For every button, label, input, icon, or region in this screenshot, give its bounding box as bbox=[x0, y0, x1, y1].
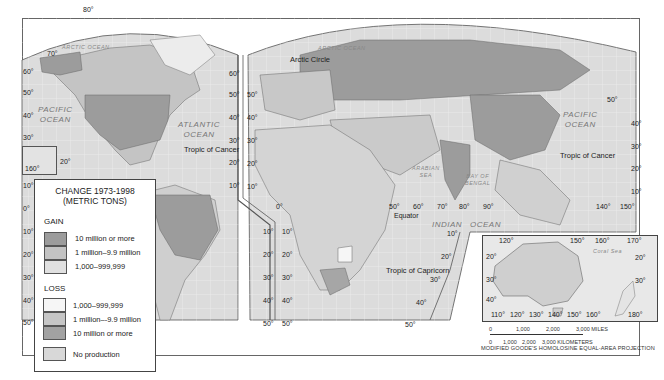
lat-label: 40° bbox=[23, 297, 34, 304]
lat-label: 20° bbox=[229, 159, 240, 166]
lat-label: 30° bbox=[229, 137, 240, 144]
lat-label: 40° bbox=[631, 120, 642, 127]
lon-label: 150° bbox=[570, 237, 584, 244]
legend-loss-mid: 1 million–-9.9 million bbox=[73, 315, 141, 324]
atlantic-ocean-label: ATLANTIC OCEAN bbox=[178, 120, 220, 140]
legend-swatch-loss-low bbox=[43, 298, 66, 312]
scale-line bbox=[490, 334, 583, 335]
legend-swatch-gain-low bbox=[44, 260, 67, 274]
scale-miles-3000: 3,000 MILES bbox=[576, 326, 608, 332]
lat-label: 50° bbox=[229, 91, 240, 98]
legend-gain-label: GAIN bbox=[44, 217, 64, 226]
lat-label: 50° bbox=[282, 320, 293, 327]
lat-label: 30° bbox=[263, 274, 274, 281]
lat-label: 40° bbox=[229, 114, 240, 121]
lat-label: 10° bbox=[282, 228, 293, 235]
lat-label: 60° bbox=[229, 70, 240, 77]
lat-label: 0° bbox=[276, 203, 283, 210]
indian-ocean-label-2: OCEAN bbox=[470, 220, 501, 230]
lat-label: 20° bbox=[441, 253, 452, 260]
legend-swatch-loss-high bbox=[43, 326, 66, 340]
lon-label: 180° bbox=[628, 311, 642, 318]
equator-label: Equator bbox=[394, 212, 419, 219]
lon-label: 60° bbox=[413, 203, 424, 210]
lat-label: 30° bbox=[282, 274, 293, 281]
lat-label: 40° bbox=[263, 297, 274, 304]
legend-loss-label: LOSS bbox=[44, 284, 65, 293]
australia-inset: 120° 150° 160° 170° Coral Sea 20° 30° 40… bbox=[482, 235, 658, 322]
legend-swatch-gain-high bbox=[44, 232, 67, 246]
lat-label: 20° bbox=[23, 251, 34, 258]
pacific-ocean-label-right: PACIFIC OCEAN bbox=[563, 110, 597, 130]
lat-label: 20° bbox=[263, 251, 274, 258]
lat-label: 10° bbox=[23, 228, 34, 235]
lat-label: 30° bbox=[486, 276, 497, 283]
lat-label: 20° bbox=[631, 165, 642, 172]
legend-no-production: No production bbox=[73, 350, 120, 359]
lat-label: 10° bbox=[263, 228, 274, 235]
lon-label: 50° bbox=[389, 203, 400, 210]
lon-label: 160° bbox=[586, 311, 600, 318]
lon-label: 80° bbox=[459, 203, 470, 210]
lat-label: 30° bbox=[247, 137, 258, 144]
scale-miles-1000: 1,000 bbox=[516, 326, 530, 332]
arabian-sea-label: ARABIAN SEA bbox=[412, 165, 440, 179]
lat-label: 60° bbox=[23, 68, 34, 75]
lat-label: 40° bbox=[486, 296, 497, 303]
lon-label: 70° bbox=[437, 203, 448, 210]
legend-swatch-no-production bbox=[43, 347, 66, 361]
legend-title: CHANGE 1973-1998 (METRIC TONS) bbox=[35, 186, 155, 206]
legend-title-line-1: CHANGE 1973-1998 bbox=[35, 186, 155, 196]
lat-label: 20° bbox=[282, 251, 293, 258]
lat-label: 30° bbox=[631, 143, 642, 150]
lat-label: 30° bbox=[430, 276, 441, 283]
lon-label: 160° bbox=[595, 237, 609, 244]
lat-label: 40° bbox=[416, 299, 427, 306]
legend-gain-mid: 1 million–9.9 million bbox=[75, 248, 140, 257]
lat-label: 30° bbox=[23, 274, 34, 281]
lat-label: 10° bbox=[631, 188, 642, 195]
legend-title-line-2: (METRIC TONS) bbox=[35, 196, 155, 206]
lat-label: 40° bbox=[247, 114, 258, 121]
bay-of-bengal-label: BAY OF BENGAL bbox=[465, 173, 490, 187]
lon-label: 140° bbox=[548, 311, 562, 318]
legend-loss-low: 1,000–999,999 bbox=[73, 301, 123, 310]
lat-label: 20° bbox=[635, 254, 646, 261]
lat-label: 10° bbox=[229, 182, 240, 189]
hawaii-lat-label: 20° bbox=[60, 158, 71, 165]
scale-miles-2000: 2,000 bbox=[546, 326, 560, 332]
legend: CHANGE 1973-1998 (METRIC TONS) GAIN 10 m… bbox=[34, 179, 156, 372]
lat-label: 80° bbox=[83, 6, 94, 13]
hawaii-lon-label: 160° bbox=[25, 165, 39, 172]
lon-label: 130° bbox=[529, 311, 543, 318]
lat-label: 50° bbox=[247, 91, 258, 98]
tropic-capricorn-label: Tropic of Capricorn bbox=[386, 266, 450, 275]
scale-miles-0: 0 bbox=[489, 326, 492, 332]
lat-label: 0° bbox=[23, 205, 30, 212]
lat-label: 10° bbox=[447, 230, 458, 237]
tropic-cancer-right-label: Tropic of Cancer bbox=[560, 151, 615, 160]
lat-label: 20° bbox=[247, 160, 258, 167]
lon-label: 120° bbox=[499, 237, 513, 244]
lon-label: 90° bbox=[483, 203, 494, 210]
lat-label: 50° bbox=[607, 96, 618, 103]
lat-label: 70° bbox=[47, 50, 58, 57]
legend-gain-low: 1,000–999,999 bbox=[75, 262, 125, 271]
legend-swatch-gain-mid bbox=[44, 246, 67, 260]
lat-label: 50° bbox=[23, 319, 34, 326]
lon-label: 150° bbox=[620, 203, 634, 210]
lat-label: 40° bbox=[282, 297, 293, 304]
lon-label: 140° bbox=[596, 203, 610, 210]
lat-label: 30° bbox=[23, 134, 34, 141]
lat-label: 50° bbox=[405, 321, 416, 328]
arctic-ocean-label-right: ARCTIC OCEAN bbox=[318, 45, 366, 52]
coral-sea-label: Coral Sea bbox=[593, 248, 622, 255]
lon-label: 120° bbox=[510, 311, 524, 318]
legend-swatch-loss-mid bbox=[43, 312, 66, 326]
legend-loss-high: 10 million or more bbox=[73, 329, 133, 338]
legend-gain-high: 10 million or more bbox=[75, 234, 135, 243]
indian-ocean-label-1: INDIAN bbox=[432, 220, 462, 230]
lat-label: 50° bbox=[263, 320, 274, 327]
lat-label: 40° bbox=[23, 112, 34, 119]
lon-label: 150° bbox=[567, 311, 581, 318]
